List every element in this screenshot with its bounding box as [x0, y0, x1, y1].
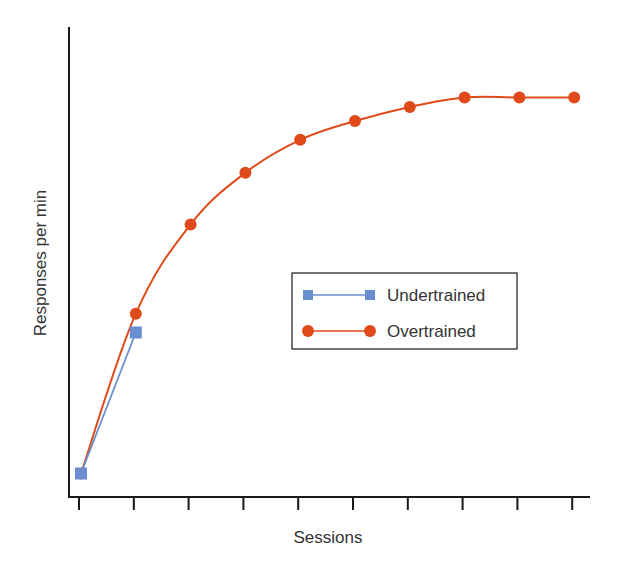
circle-marker-icon [364, 325, 376, 337]
chart: Sessions Responses per min Undertrained … [0, 0, 621, 570]
circle-marker-icon [568, 92, 580, 104]
circle-marker-icon [404, 101, 416, 113]
circle-marker-icon [294, 134, 306, 146]
legend: Undertrained Overtrained [292, 273, 517, 349]
legend-label-undertrained: Undertrained [387, 286, 485, 305]
circle-marker-icon [130, 308, 142, 320]
series-undertrained [75, 327, 142, 480]
square-marker-icon [75, 468, 87, 480]
circle-marker-icon [459, 92, 471, 104]
circle-marker-icon [349, 115, 361, 127]
square-marker-icon [130, 327, 142, 339]
circle-marker-icon [302, 325, 314, 337]
circle-marker-icon [513, 92, 525, 104]
circle-marker-icon [239, 167, 251, 179]
square-marker-icon [303, 290, 313, 300]
x-axis-label: Sessions [294, 528, 363, 547]
square-marker-icon [365, 290, 375, 300]
circle-marker-icon [185, 218, 197, 230]
y-axis-label: Responses per min [31, 190, 50, 336]
legend-label-overtrained: Overtrained [387, 322, 476, 341]
series-line [81, 333, 136, 474]
x-axis-ticks [79, 497, 572, 510]
